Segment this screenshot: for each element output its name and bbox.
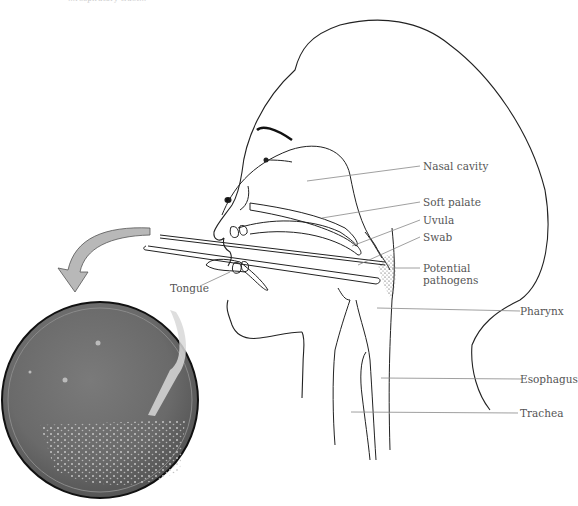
head-outline — [214, 20, 548, 410]
label-pharynx: Pharynx — [520, 305, 564, 317]
label-potential-pathogens-2: pathogens — [423, 274, 478, 286]
airway-tubes — [333, 288, 376, 460]
petri-dish-culture — [2, 302, 198, 498]
label-potential-pathogens-1: Potential — [423, 262, 470, 274]
label-nasal-cavity: Nasal cavity — [423, 160, 488, 172]
label-esophagus: Esophagus — [520, 373, 578, 385]
label-swab: Swab — [423, 231, 452, 243]
label-soft-palate: Soft palate — [423, 196, 481, 208]
swab — [144, 235, 385, 284]
label-trachea: Trachea — [520, 407, 563, 419]
eyebrow — [257, 128, 292, 140]
label-tongue: Tongue — [170, 282, 209, 294]
curved-arrow-icon — [58, 228, 150, 292]
label-uvula: Uvula — [423, 214, 454, 226]
